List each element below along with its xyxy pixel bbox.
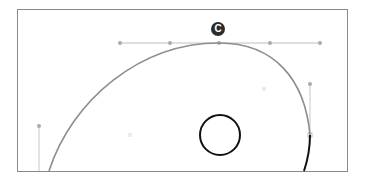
anchor-badge-c: C xyxy=(211,22,225,36)
center-marker xyxy=(262,87,266,91)
handle-point[interactable] xyxy=(118,41,122,45)
vector-canvas[interactable] xyxy=(0,0,366,179)
center-marker xyxy=(128,133,132,137)
handle-point[interactable] xyxy=(318,41,322,45)
handle-point[interactable] xyxy=(37,124,41,128)
handle-point[interactable] xyxy=(308,82,312,86)
handle-point[interactable] xyxy=(168,41,172,45)
handle-point[interactable] xyxy=(268,41,272,45)
